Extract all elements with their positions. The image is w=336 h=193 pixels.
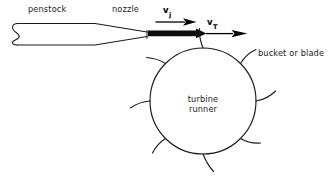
bucket-arc-bottom bbox=[203, 154, 214, 172]
turbine-diagram: penstock nozzle bucket or blade turbine … bbox=[0, 0, 336, 193]
bucket-arc-lower-right bbox=[241, 139, 261, 144]
bucket-arc-upper-left bbox=[147, 58, 166, 64]
bucket-velocity-arrow bbox=[206, 30, 248, 37]
bucket-velocity-subscript: T bbox=[213, 23, 218, 31]
water-jet bbox=[148, 29, 207, 39]
nozzle-label: nozzle bbox=[112, 4, 139, 14]
bucket-or-blade-label: bucket or blade bbox=[258, 48, 324, 58]
turbine-runner-label-line2: runner bbox=[189, 104, 218, 114]
diagram-canvas: penstock nozzle bucket or blade turbine … bbox=[0, 0, 336, 193]
bucket-arc-right bbox=[256, 91, 276, 101]
jet-velocity-arrow bbox=[156, 18, 197, 25]
turbine-runner-label-line1: turbine bbox=[188, 94, 219, 104]
penstock-label: penstock bbox=[28, 4, 66, 14]
bucket-arc-upper-right bbox=[241, 50, 257, 64]
bucket-arc-left bbox=[131, 101, 151, 108]
jet-velocity-subscript: j bbox=[168, 11, 171, 19]
bucket-arc-lower-left bbox=[153, 139, 166, 154]
penstock-shape bbox=[12, 24, 147, 46]
